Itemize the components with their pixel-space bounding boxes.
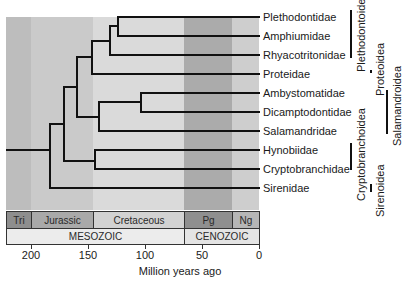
band-jurassic xyxy=(31,17,93,210)
clade-bar-salamandroidea xyxy=(386,90,388,134)
clade-label-sirenoidea: Sirenoidea xyxy=(374,164,386,217)
branch-cryptobranchidae xyxy=(95,168,260,170)
axis-tick-label: 100 xyxy=(136,249,154,261)
stem-upper-clade xyxy=(64,86,78,88)
period-triassic: Tri xyxy=(6,211,32,229)
taxon-label: Ambystomatidae xyxy=(263,87,345,99)
stem-salamanders xyxy=(50,123,65,125)
branch-sirenidae xyxy=(50,187,260,189)
era-mesozoic: MESOZOIC xyxy=(6,228,185,245)
clade-bar-cryptobranchoidea xyxy=(350,143,352,170)
taxon-label: Sirenidae xyxy=(263,182,309,194)
branch-plethodontidae xyxy=(118,16,260,18)
clade-bar-plethodontoidea xyxy=(350,10,352,58)
branch-proteidae xyxy=(92,73,260,75)
branch-amphiumidae xyxy=(118,35,260,37)
stem-cryptobranchoidea xyxy=(64,160,96,162)
taxon-label: Proteidae xyxy=(263,68,310,80)
taxon-label: Rhyacotritonidae xyxy=(263,49,346,61)
node-root xyxy=(49,123,51,189)
stem-pleth-amph xyxy=(110,25,119,27)
band-neogene xyxy=(232,17,259,210)
stem-ambys-dicamp xyxy=(99,101,142,103)
branch-dicamptodontidae xyxy=(141,111,260,113)
taxon-label: Hynobiidae xyxy=(263,144,318,156)
clade-label-salamandroidea: Salamandroidea xyxy=(391,66,403,146)
axis-tick-label: 200 xyxy=(22,249,40,261)
taxon-label: Cryptobranchidae xyxy=(263,163,350,175)
band-cretaceous xyxy=(93,17,184,210)
taxon-label: Dicamptodontidae xyxy=(263,106,352,118)
clade-bar-proteoidea xyxy=(370,70,372,73)
stem-salamandroidea xyxy=(77,116,100,118)
taxon-label: Salamandridae xyxy=(263,125,337,137)
period-paleogene: Pg xyxy=(184,211,233,229)
stem-plethodontoidea xyxy=(92,40,111,42)
clade-label-proteoidea: Proteoidea xyxy=(374,43,386,96)
axis-tick-label: 50 xyxy=(196,249,208,261)
clade-label-plethodontoidea: Plethodontoidea xyxy=(355,0,367,72)
period-cretaceous: Cretaceous xyxy=(93,211,185,229)
axis-tick-label: 150 xyxy=(79,249,97,261)
band-triassic xyxy=(6,17,31,210)
axis-tick-label: 0 xyxy=(256,249,262,261)
era-cenozoic: CENOZOIC xyxy=(184,228,260,245)
branch-hynobiidae xyxy=(95,149,260,151)
clade-bar-sirenoidea xyxy=(370,184,372,192)
branch-ambystomatidae xyxy=(141,92,260,94)
clade-label-cryptobranchoidea: Cryptobranchoidea xyxy=(355,108,367,201)
period-neogene: Ng xyxy=(232,211,260,229)
stem-pleth-prot xyxy=(77,56,93,58)
period-jurassic: Jurassic xyxy=(31,211,94,229)
root-stem xyxy=(6,149,51,151)
branch-rhyacotritonidae xyxy=(110,54,260,56)
taxon-label: Amphiumidae xyxy=(263,30,330,42)
taxon-label: Plethodontidae xyxy=(263,11,336,23)
branch-salamandridae xyxy=(99,130,260,132)
axis-title: Million years ago xyxy=(120,265,240,277)
band-paleogene xyxy=(184,17,232,210)
